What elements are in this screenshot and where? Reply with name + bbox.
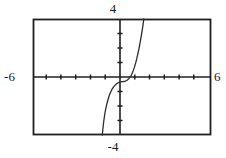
window-ymax-label: 4 <box>0 2 226 15</box>
window-xmax-label: 6 <box>214 70 221 83</box>
window-xmin-label: -6 <box>4 70 15 83</box>
plot-canvas <box>0 0 226 158</box>
graphing-calculator-plot: 4 -4 -6 6 <box>0 0 226 158</box>
window-ymin-label: -4 <box>0 140 226 153</box>
